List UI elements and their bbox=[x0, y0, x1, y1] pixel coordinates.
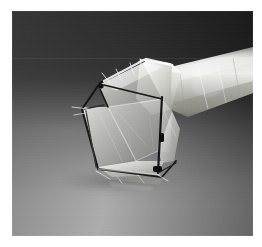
stent-device bbox=[12, 11, 253, 236]
stent-membrane bbox=[82, 60, 180, 177]
photo-frame bbox=[0, 0, 262, 247]
photograph bbox=[12, 11, 253, 236]
